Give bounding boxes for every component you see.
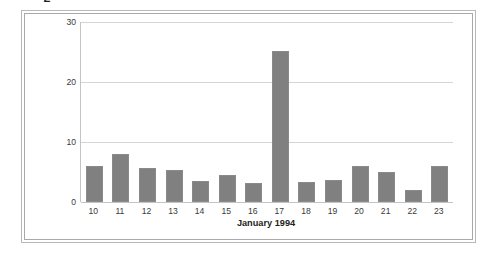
y-tick-label-10: 10 [52, 138, 76, 147]
bar-slot [427, 22, 454, 202]
bar [325, 180, 342, 202]
bar [86, 166, 103, 202]
bar [272, 51, 289, 202]
x-axis-tick-labels: 1011121314151617181920212223 [80, 206, 452, 216]
bar [245, 183, 262, 202]
x-tick-label: 15 [213, 206, 240, 216]
axis-baseline [81, 202, 453, 203]
bar-slot [161, 22, 188, 202]
x-tick-label: 14 [186, 206, 213, 216]
x-tick-label: 16 [239, 206, 266, 216]
x-tick-label: 20 [346, 206, 373, 216]
bar-slot [267, 22, 294, 202]
x-tick-label: 19 [319, 206, 346, 216]
bar [405, 190, 422, 202]
bar [431, 166, 448, 202]
bar [352, 166, 369, 202]
x-tick-label: 18 [293, 206, 320, 216]
plot-area [80, 22, 453, 202]
x-tick-label: 21 [372, 206, 399, 216]
bar-slot [81, 22, 108, 202]
x-tick-label: 12 [133, 206, 160, 216]
bar [378, 172, 395, 202]
y-tick-label-20: 20 [52, 78, 76, 87]
bar-slot [320, 22, 347, 202]
x-tick-label: 22 [399, 206, 426, 216]
chart-plot-wrapper: Number of Cardiac Deaths 30 20 10 0 1011… [30, 16, 467, 237]
bar-series [81, 22, 453, 202]
bar [166, 170, 183, 202]
x-tick-label: 10 [80, 206, 107, 216]
bar-slot [214, 22, 241, 202]
x-tick-label: 13 [160, 206, 187, 216]
x-tick-label: 11 [107, 206, 134, 216]
bar-slot [240, 22, 267, 202]
bar-slot [400, 22, 427, 202]
bar-slot [187, 22, 214, 202]
y-axis-tick-labels: 30 20 10 0 [52, 16, 76, 216]
bar [298, 182, 315, 202]
figure-root: Number of Cardiac Deaths 30 20 10 0 1011… [0, 0, 498, 262]
bar [192, 181, 209, 202]
bar-slot [373, 22, 400, 202]
bar-slot [294, 22, 321, 202]
x-tick-label: 17 [266, 206, 293, 216]
y-tick-label-0: 0 [52, 198, 76, 207]
bar-slot [347, 22, 374, 202]
bar-slot [108, 22, 135, 202]
y-tick-label-30: 30 [52, 18, 76, 27]
x-axis-label: January 1994 [80, 218, 452, 229]
bar-slot [134, 22, 161, 202]
bar [219, 175, 236, 202]
bar [112, 154, 129, 202]
bar [139, 168, 156, 202]
x-tick-label: 23 [426, 206, 453, 216]
